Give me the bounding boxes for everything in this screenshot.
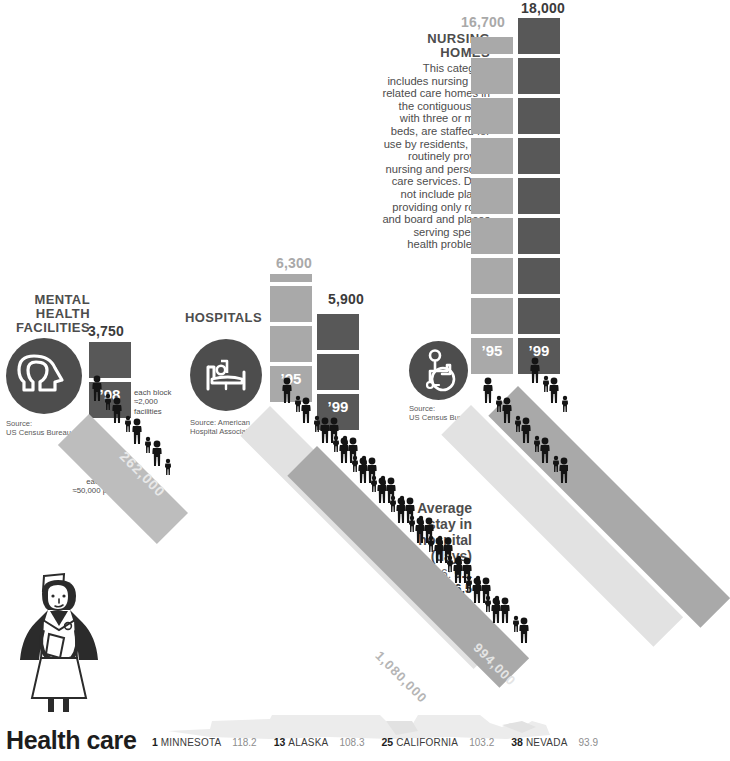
ranking-item: 13 ALASKA	[274, 736, 329, 748]
ranking-item: 25 CALIFORNIA	[382, 736, 459, 748]
footer: Health care 1 MINNESOTA 118.2 13 ALASKA …	[0, 715, 568, 761]
rank-value: 108.3	[339, 737, 364, 748]
ranking-item: 1 MINNESOTA	[152, 736, 221, 748]
rank-state: CALIFORNIA	[396, 737, 458, 748]
rank-state: MINNESOTA	[161, 737, 222, 748]
rank-value: 103.2	[469, 737, 494, 748]
nurse-illustration	[6, 560, 116, 712]
page-title: Health care	[6, 726, 136, 755]
rank-number: 25	[382, 736, 394, 748]
rank-number: 1	[152, 736, 158, 748]
state-ranking-row: 1 MINNESOTA 118.2 13 ALASKA 108.3 25 CAL…	[152, 734, 564, 750]
rank-value: 118.2	[232, 737, 256, 748]
rank-number: 13	[274, 736, 286, 748]
rank-number: 38	[511, 736, 523, 748]
rank-state: ALASKA	[288, 737, 328, 748]
ranking-item: 38 NEVADA	[511, 736, 567, 748]
rank-state: NEVADA	[526, 737, 568, 748]
rank-value: 93.9	[579, 737, 598, 748]
